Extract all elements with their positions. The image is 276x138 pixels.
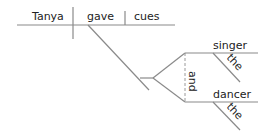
lower-modifier: the bbox=[224, 100, 246, 122]
fork-upper bbox=[153, 53, 185, 78]
direct-object-word: cues bbox=[134, 10, 160, 23]
upper-modifier: the bbox=[224, 51, 246, 73]
sentence-diagram: Tanya gave cues and singer the dancer th… bbox=[0, 0, 276, 138]
fork-lower bbox=[153, 78, 185, 102]
lower-noun: dancer bbox=[213, 88, 252, 101]
upper-noun: singer bbox=[213, 39, 248, 52]
subject-word: Tanya bbox=[31, 10, 64, 23]
conjunction-word: and bbox=[186, 71, 199, 92]
verb-word: gave bbox=[87, 10, 114, 23]
indirect-object-slant bbox=[88, 25, 149, 90]
